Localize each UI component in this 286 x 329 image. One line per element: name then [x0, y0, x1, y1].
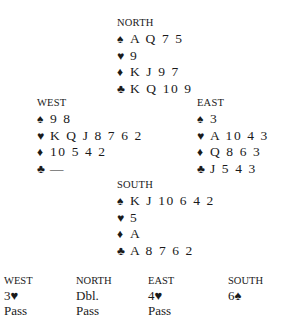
west-hand: WEST ♠9 8 ♥K Q J 8 7 6 2 ♦10 5 4 2 ♣—: [37, 97, 143, 177]
seat-label-west: WEST: [37, 97, 143, 111]
auction-header-east: EAST: [148, 275, 174, 288]
south-spades: ♠K J 10 6 4 2: [117, 193, 215, 210]
west-spades-cards: 9 8: [50, 111, 72, 126]
east-spades: ♠3: [197, 111, 269, 128]
west-hearts: ♥K Q J 8 7 6 2: [37, 128, 143, 145]
heart-icon: ♥: [37, 129, 50, 145]
auction-column-north: NORTH Dbl. Pass: [76, 275, 112, 318]
auction-call: Dbl.: [76, 288, 112, 303]
north-diamonds: ♦K J 9 7: [117, 64, 193, 81]
south-clubs-cards: A 8 7 6 2: [130, 243, 194, 258]
diamond-icon: ♦: [37, 145, 50, 161]
west-hearts-cards: K Q J 8 7 6 2: [50, 128, 143, 143]
diamond-icon: ♦: [117, 227, 130, 243]
auction-column-east: EAST 4♥ Pass: [148, 275, 174, 318]
west-clubs: ♣—: [37, 161, 143, 178]
spade-icon: ♠: [37, 112, 50, 128]
auction-call: 3♥: [4, 288, 33, 303]
south-clubs: ♣A 8 7 6 2: [117, 243, 215, 260]
seat-label-east: EAST: [197, 97, 269, 111]
club-icon: ♣: [117, 82, 130, 98]
east-diamonds: ♦Q 8 6 3: [197, 144, 269, 161]
north-clubs: ♣K Q 10 9: [117, 81, 193, 98]
seat-label-south: SOUTH: [117, 179, 215, 193]
east-clubs-cards: J 5 4 3: [210, 161, 257, 176]
south-diamonds: ♦A: [117, 226, 215, 243]
south-diamonds-cards: A: [130, 226, 141, 241]
club-icon: ♣: [37, 162, 50, 178]
north-hearts-cards: 9: [130, 48, 138, 63]
south-hand: SOUTH ♠K J 10 6 4 2 ♥5 ♦A ♣A 8 7 6 2: [117, 179, 215, 259]
auction-header-north: NORTH: [76, 275, 112, 288]
spade-icon: ♠: [197, 112, 210, 128]
west-diamonds-cards: 10 5 4 2: [50, 144, 107, 159]
auction-header-south: SOUTH: [228, 275, 263, 288]
spade-icon: ♠: [117, 32, 130, 48]
diamond-icon: ♦: [197, 145, 210, 161]
north-clubs-cards: K Q 10 9: [130, 81, 193, 96]
auction-call: 4♥: [148, 288, 174, 303]
auction-call: Pass: [148, 303, 174, 318]
club-icon: ♣: [197, 162, 210, 178]
south-hearts-cards: 5: [130, 210, 138, 225]
heart-icon: ♥: [197, 129, 210, 145]
east-hearts: ♥A 10 4 3: [197, 128, 269, 145]
auction-header-west: WEST: [4, 275, 33, 288]
west-diamonds: ♦10 5 4 2: [37, 144, 143, 161]
east-clubs: ♣J 5 4 3: [197, 161, 269, 178]
south-spades-cards: K J 10 6 4 2: [130, 193, 215, 208]
east-diamonds-cards: Q 8 6 3: [210, 144, 261, 159]
east-spades-cards: 3: [210, 111, 218, 126]
club-icon: ♣: [117, 244, 130, 260]
auction-call: 6♠: [228, 288, 263, 303]
north-diamonds-cards: K J 9 7: [130, 64, 180, 79]
seat-label-north: NORTH: [117, 17, 193, 31]
east-hearts-cards: A 10 4 3: [210, 128, 269, 143]
west-clubs-cards: —: [50, 161, 65, 176]
east-hand: EAST ♠3 ♥A 10 4 3 ♦Q 8 6 3 ♣J 5 4 3: [197, 97, 269, 177]
north-spades-cards: A Q 7 5: [130, 31, 184, 46]
south-hearts: ♥5: [117, 210, 215, 227]
heart-icon: ♥: [117, 49, 130, 65]
north-hearts: ♥9: [117, 48, 193, 65]
auction-call: Pass: [76, 303, 112, 318]
spade-icon: ♠: [117, 194, 130, 210]
heart-icon: ♥: [117, 211, 130, 227]
diamond-icon: ♦: [117, 65, 130, 81]
north-hand: NORTH ♠A Q 7 5 ♥9 ♦K J 9 7 ♣K Q 10 9: [117, 17, 193, 97]
west-spades: ♠9 8: [37, 111, 143, 128]
auction-column-south: SOUTH 6♠: [228, 275, 263, 303]
north-spades: ♠A Q 7 5: [117, 31, 193, 48]
auction-column-west: WEST 3♥ Pass: [4, 275, 33, 318]
auction-call: Pass: [4, 303, 33, 318]
